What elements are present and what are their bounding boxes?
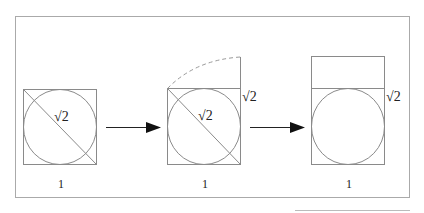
rotation-arc-dashed: [168, 57, 241, 89]
diagonal-label: √2: [54, 109, 69, 124]
bottom-label: 1: [346, 177, 352, 191]
panel-2: √2 √2 1: [168, 57, 257, 191]
arrowhead-icon: [290, 122, 305, 133]
arrowhead-icon: [146, 122, 161, 133]
frame-border: [16, 17, 410, 198]
side-label: √2: [386, 89, 401, 104]
diagonal-label: √2: [198, 108, 213, 123]
bottom-label: 1: [202, 177, 208, 191]
side-label: √2: [242, 89, 257, 104]
inscribed-circle: [312, 89, 385, 165]
arrow-1: [106, 122, 161, 133]
bottom-label: 1: [58, 177, 64, 191]
diagram-canvas: √2 1 √2 √2 1 √2 1: [0, 0, 424, 213]
panel-1: √2 1: [24, 90, 97, 192]
panel-3: √2 1: [312, 57, 401, 192]
rectangle: [312, 57, 385, 165]
arrow-2: [250, 122, 305, 133]
